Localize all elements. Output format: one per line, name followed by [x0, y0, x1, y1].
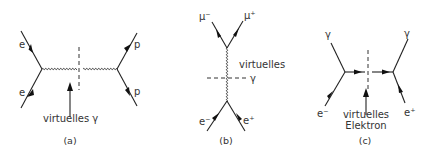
virtual-photon-wave — [226, 48, 227, 101]
arrow-icon — [398, 84, 403, 93]
virtual-photon-wave-right — [83, 68, 118, 69]
caption-c: (c) — [359, 135, 372, 146]
label-e-plus: e⁺ — [404, 107, 415, 118]
electron-line — [325, 72, 345, 106]
label-gamma-left: γ — [325, 29, 331, 40]
caption-a: (a) — [63, 135, 76, 146]
caption-b: (b) — [219, 135, 232, 146]
arrow-icon — [125, 87, 130, 96]
label-gamma-right: γ — [404, 28, 410, 39]
arrow-icon — [124, 44, 131, 52]
annotation-gamma: γ — [250, 73, 256, 84]
panel-b: μ⁻ μ⁺ e⁻ e⁺ virtuelles γ (b) — [199, 10, 285, 146]
label-p-bottom: p — [134, 86, 140, 97]
label-mu-minus: μ⁻ — [199, 11, 211, 22]
label-p-top: p — [134, 39, 140, 50]
panel-c: γ e⁻ γ e⁺ virtuelles Elektron (c) — [317, 28, 415, 146]
feynman-diagrams: e e p p virtuelles γ (a) μ⁻ μ⁺ e⁻ e⁺ vir… — [0, 0, 427, 154]
label-e-bottom: e — [19, 87, 25, 98]
label-mu-plus: μ⁺ — [244, 10, 256, 21]
label-e-top: e — [19, 39, 25, 50]
arrow-icon — [212, 113, 219, 121]
arrow-right-icon — [354, 70, 362, 75]
annotation-virtual-photon: virtuelles γ — [43, 113, 98, 124]
arrow-up-icon — [363, 88, 369, 97]
label-e-plus: e⁺ — [243, 115, 254, 126]
annotation-virtual: virtuelles — [239, 59, 285, 70]
photon-line-left — [331, 43, 345, 72]
label-e-minus: e⁻ — [317, 108, 328, 119]
annotation-virtual: virtuelles — [343, 109, 389, 120]
virtual-photon-wave-left — [42, 68, 77, 69]
arrow-up-icon — [67, 82, 73, 91]
arrow-right-icon — [382, 70, 390, 75]
annotation-electron: Elektron — [345, 120, 386, 131]
label-e-minus: e⁻ — [199, 116, 210, 127]
photon-line-right — [393, 39, 408, 72]
panel-a: e e p p virtuelles γ (a) — [19, 31, 140, 146]
